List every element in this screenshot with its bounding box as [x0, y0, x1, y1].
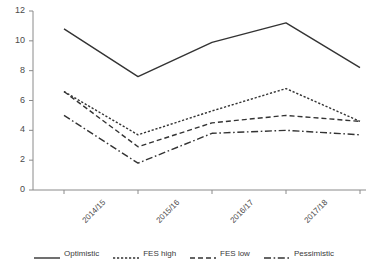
legend-label: FES low: [220, 249, 250, 259]
y-tick-label: 2: [5, 155, 25, 164]
line-chart: 121086420 2014/152015/162016/172017/1820…: [0, 0, 368, 267]
x-axis-ticks: [64, 190, 360, 194]
y-axis-ticks: [29, 11, 33, 190]
legend-item-fes-low[interactable]: FES low: [190, 249, 250, 259]
legend-item-optimistic[interactable]: Optimistic: [34, 249, 99, 259]
legend-item-pessimistic[interactable]: Pessimistic: [264, 249, 334, 259]
legend-label: FES high: [143, 249, 176, 259]
legend-label: Optimistic: [64, 249, 99, 259]
legend-swatch-dashed-icon: [190, 249, 216, 259]
legend-item-fes-high[interactable]: FES high: [113, 249, 176, 259]
legend-swatch-dotted-icon: [113, 249, 139, 259]
legend-swatch-solid-icon: [34, 249, 60, 259]
series-line-fes-high: [64, 89, 360, 135]
data-series-group: [64, 23, 360, 163]
y-tick-label: 8: [5, 66, 25, 75]
legend-label: Pessimistic: [294, 249, 334, 259]
plot-area: [0, 0, 368, 267]
y-tick-label: 10: [5, 36, 25, 45]
y-tick-label: 4: [5, 125, 25, 134]
series-line-optimistic: [64, 23, 360, 77]
y-tick-label: 6: [5, 96, 25, 105]
y-tick-label: 12: [5, 6, 25, 15]
legend-swatch-dash-dot-icon: [264, 249, 290, 259]
series-line-fes-low: [64, 92, 360, 147]
chart-legend: OptimisticFES highFES lowPessimistic: [0, 243, 368, 265]
y-tick-label: 0: [5, 185, 25, 194]
